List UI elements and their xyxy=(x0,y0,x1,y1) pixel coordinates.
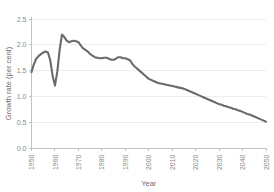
y-tick-label: 2.0 xyxy=(17,41,27,48)
x-tick-label: 2050 xyxy=(263,154,270,170)
y-tick-label: 0.0 xyxy=(17,145,27,152)
x-tick-label: 1980 xyxy=(98,154,105,170)
x-tick-label: 2000 xyxy=(145,154,152,170)
x-axis-ticks: 1950196019701980199020002010202020302040… xyxy=(28,148,270,170)
growth-rate-line xyxy=(32,34,267,121)
axis-lines xyxy=(32,17,267,148)
gridlines xyxy=(32,19,267,148)
y-axis-ticks: 0.00.51.01.52.02.5 xyxy=(17,16,32,152)
x-tick-label: 2040 xyxy=(239,154,246,170)
x-axis-title: Year xyxy=(141,179,157,188)
data-series xyxy=(32,34,267,121)
growth-rate-line-chart: 1950196019701980199020002010202020302040… xyxy=(0,0,274,192)
x-tick-label: 2020 xyxy=(192,154,199,170)
y-tick-label: 2.5 xyxy=(17,16,27,23)
x-tick-label: 1960 xyxy=(52,154,59,170)
y-axis-title: Growth rate (per cent) xyxy=(4,46,13,120)
x-tick-label: 1950 xyxy=(28,154,35,170)
x-tick-label: 2030 xyxy=(216,154,223,170)
x-tick-label: 2010 xyxy=(169,154,176,170)
x-tick-label: 1970 xyxy=(75,154,82,170)
y-tick-label: 1.0 xyxy=(17,93,27,100)
x-tick-label: 1990 xyxy=(122,154,129,170)
y-tick-label: 1.5 xyxy=(17,67,27,74)
y-tick-label: 0.5 xyxy=(17,119,27,126)
chart-canvas: 1950196019701980199020002010202020302040… xyxy=(0,0,274,192)
